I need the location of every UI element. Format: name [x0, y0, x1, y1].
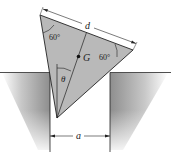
angle-right-label: 60° — [99, 53, 110, 62]
d-arrow-left — [43, 9, 48, 12]
centroid-point — [77, 55, 81, 59]
centroid-label: G — [83, 52, 90, 63]
angle-top-left-label: 60° — [49, 33, 60, 42]
a-label: a — [76, 130, 81, 141]
d-extension-left — [40, 7, 43, 15]
block-in-slot-diagram: θ G 60° 60° d a — [0, 0, 171, 167]
d-arrow-right — [131, 41, 136, 44]
theta-label: θ — [61, 74, 66, 84]
d-label: d — [85, 20, 91, 31]
ground-fade — [0, 110, 171, 155]
